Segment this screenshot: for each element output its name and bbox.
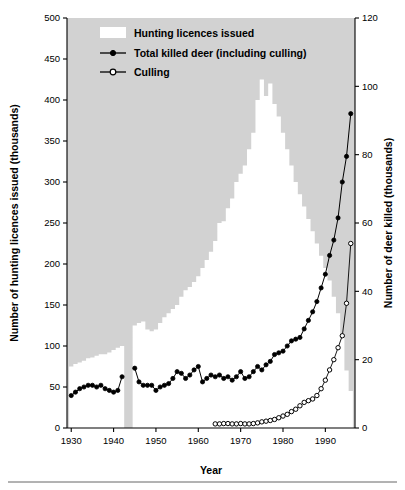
- left-tick-label: 400: [44, 94, 60, 105]
- culling-marker: [285, 412, 289, 416]
- total-killed-marker: [268, 359, 272, 363]
- culling-marker: [277, 416, 281, 420]
- right-tick-label: 20: [362, 354, 373, 365]
- chart-figure: 050100150200250300350400450500 020406080…: [0, 0, 405, 490]
- culling-marker: [268, 418, 272, 422]
- total-killed-marker: [209, 373, 213, 377]
- culling-marker: [310, 397, 314, 401]
- total-killed-marker: [327, 253, 331, 257]
- culling-marker: [289, 409, 293, 413]
- total-killed-marker: [340, 180, 344, 184]
- total-killed-marker: [90, 383, 94, 387]
- total-killed-marker: [154, 388, 158, 392]
- total-killed-marker: [217, 373, 221, 377]
- total-killed-marker: [192, 368, 196, 372]
- legend-marker-total: [110, 50, 115, 55]
- legend-swatch-licences: [100, 27, 126, 38]
- culling-marker: [281, 414, 285, 418]
- x-tick-label: 1970: [230, 435, 251, 446]
- total-killed-marker: [336, 216, 340, 220]
- legend-label-culling: Culling: [134, 66, 170, 78]
- culling-marker: [298, 404, 302, 408]
- total-killed-marker: [272, 352, 276, 356]
- left-tick-label: 450: [44, 53, 60, 64]
- legend-marker-culling: [110, 69, 116, 75]
- culling-marker: [234, 422, 238, 426]
- total-killed-marker: [349, 112, 353, 116]
- total-killed-marker: [294, 337, 298, 341]
- total-killed-marker: [239, 370, 243, 374]
- culling-marker: [336, 346, 340, 350]
- total-killed-marker: [188, 373, 192, 377]
- culling-marker: [226, 421, 230, 425]
- total-killed-marker: [332, 238, 336, 242]
- culling-marker: [315, 393, 319, 397]
- left-tick-label: 200: [44, 258, 60, 269]
- total-killed-marker: [260, 368, 264, 372]
- left-axis-title: Number of hunting licences issued (thous…: [8, 104, 20, 341]
- total-killed-marker: [323, 272, 327, 276]
- total-killed-marker: [162, 383, 166, 387]
- total-killed-marker: [141, 383, 145, 387]
- total-killed-marker: [73, 390, 77, 394]
- total-killed-marker: [183, 376, 187, 380]
- culling-marker: [247, 422, 251, 426]
- x-tick-label: 1960: [188, 435, 209, 446]
- culling-marker: [349, 241, 353, 245]
- culling-marker: [340, 334, 344, 338]
- total-killed-marker: [78, 387, 82, 391]
- total-killed-marker: [86, 383, 90, 387]
- left-tick-label: 100: [44, 340, 60, 351]
- culling-marker: [323, 378, 327, 382]
- total-killed-marker: [315, 299, 319, 303]
- total-killed-marker: [319, 286, 323, 290]
- total-killed-marker: [230, 378, 234, 382]
- culling-marker: [251, 421, 255, 425]
- total-killed-marker: [264, 363, 268, 367]
- x-axis-title: Year: [200, 464, 222, 476]
- culling-marker: [332, 357, 336, 361]
- culling-marker: [327, 368, 331, 372]
- total-killed-marker: [247, 375, 251, 379]
- total-killed-marker: [311, 310, 315, 314]
- total-killed-marker: [277, 351, 281, 355]
- total-killed-marker: [179, 371, 183, 375]
- left-tick-label: 0: [55, 422, 60, 433]
- total-killed-marker: [133, 366, 137, 370]
- left-tick-label: 300: [44, 176, 60, 187]
- total-killed-marker: [167, 381, 171, 385]
- total-killed-marker: [137, 380, 141, 384]
- total-killed-marker: [255, 364, 259, 368]
- x-tick-label: 1950: [145, 435, 166, 446]
- total-killed-marker: [196, 364, 200, 368]
- x-tick-label: 1990: [315, 435, 336, 446]
- total-killed-marker: [226, 375, 230, 379]
- total-killed-marker: [302, 327, 306, 331]
- total-killed-marker: [99, 383, 103, 387]
- culling-marker: [344, 301, 348, 305]
- total-killed-marker: [306, 318, 310, 322]
- total-killed-marker: [251, 370, 255, 374]
- left-tick-label: 350: [44, 135, 60, 146]
- total-killed-marker: [69, 393, 73, 397]
- right-axis-title: Number of deer killed (thousands): [382, 138, 394, 308]
- total-killed-marker: [281, 349, 285, 353]
- right-tick-label: 40: [362, 286, 373, 297]
- deer-hunting-chart: 050100150200250300350400450500 020406080…: [0, 0, 405, 490]
- legend-label-total: Total killed deer (including culling): [134, 47, 306, 59]
- culling-marker: [238, 421, 242, 425]
- total-killed-marker: [298, 335, 302, 339]
- x-tick-label: 1930: [61, 435, 82, 446]
- total-killed-marker: [95, 385, 99, 389]
- total-killed-marker: [285, 344, 289, 348]
- total-killed-marker: [175, 370, 179, 374]
- total-killed-marker: [158, 385, 162, 389]
- left-tick-label: 500: [44, 12, 60, 23]
- total-killed-marker: [103, 387, 107, 391]
- right-tick-label: 120: [362, 12, 378, 23]
- total-killed-marker: [120, 375, 124, 379]
- total-killed-marker: [116, 388, 120, 392]
- x-tick-label: 1980: [272, 435, 293, 446]
- plot-area: [67, 18, 355, 428]
- culling-marker: [217, 422, 221, 426]
